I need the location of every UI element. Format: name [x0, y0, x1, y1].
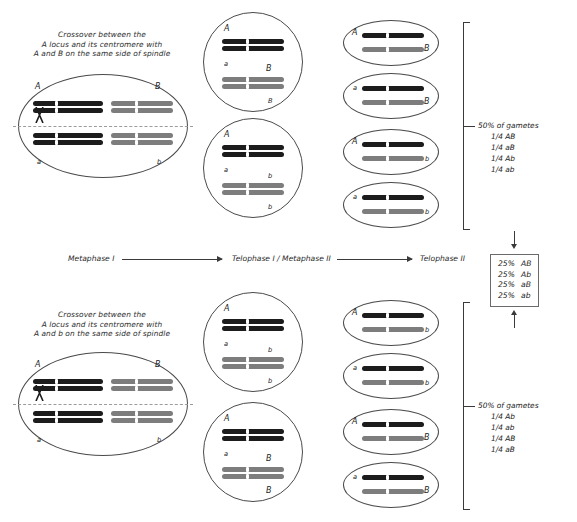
- centromere: [386, 47, 389, 52]
- top-telophase-ii-cell-3: A b: [343, 129, 439, 175]
- chromosome-gray: [362, 156, 424, 161]
- centromere: [135, 411, 138, 416]
- gamete-label-gray: b: [425, 156, 429, 163]
- centromere: [386, 33, 389, 38]
- centromere: [246, 319, 249, 324]
- centromere: [135, 386, 138, 391]
- cell-label-A: A: [224, 415, 229, 423]
- gamete-label-gray: B: [424, 487, 430, 495]
- chromatid: [222, 183, 284, 188]
- top-gamete-item-2: 1/4 aB: [478, 142, 539, 153]
- bottom-caption-line-2: A locus and its centromere with: [14, 320, 190, 330]
- gamete-label-dark: a: [353, 194, 357, 201]
- top-caption: Crossover between the A locus and its ce…: [14, 30, 190, 59]
- summary-row: 25%ab: [498, 291, 531, 302]
- bottom-metaphase-label-a: a: [37, 437, 41, 444]
- chromatid: [111, 108, 173, 113]
- stage-arrow-2: [337, 259, 412, 260]
- chromatid: [222, 357, 284, 362]
- bottom-gamete-heading: 50% of gametes: [478, 400, 539, 411]
- centromere: [135, 108, 138, 113]
- top-gamete-bracket-tick: [463, 126, 475, 127]
- chromatid: [111, 379, 173, 384]
- bottom-caption-line-1: Crossover between the: [14, 310, 190, 320]
- centromere: [135, 133, 138, 138]
- gamete-label-dark: A: [352, 418, 357, 426]
- chromosome-gray: [362, 327, 424, 332]
- chromatid: [222, 467, 284, 472]
- cell-label-b-upper: b: [268, 173, 272, 180]
- cell-label-A: A: [224, 305, 229, 313]
- centromere: [246, 436, 249, 441]
- chromosome-dark: [362, 422, 424, 427]
- centromere: [55, 418, 58, 423]
- centromere: [55, 140, 58, 145]
- cell-label-a: a: [224, 61, 228, 68]
- gamete-label-dark: a: [353, 85, 357, 92]
- cell-label-B-lower: B: [268, 98, 273, 105]
- centromere: [386, 475, 389, 480]
- chromatid: [222, 46, 284, 51]
- chromatid: [222, 319, 284, 324]
- centromere: [135, 379, 138, 384]
- top-telophase-ii-cell-4: a b: [343, 182, 439, 228]
- stage-label-metaphase-i: Metaphase I: [68, 254, 114, 263]
- summary-percent-2: 25%: [498, 270, 521, 281]
- chromatid: [222, 39, 284, 44]
- centromere: [246, 84, 249, 89]
- gamete-label-dark: A: [352, 138, 357, 146]
- gamete-label-gray: B: [424, 98, 430, 106]
- stage-arrow-1: [122, 259, 222, 260]
- chromatid: [111, 386, 173, 391]
- summary-row: 25%AB: [498, 259, 531, 270]
- chromatid: [111, 133, 173, 138]
- centromere: [386, 195, 389, 200]
- centromere: [386, 142, 389, 147]
- centromere: [55, 411, 58, 416]
- centromere: [386, 313, 389, 318]
- gamete-label-gray: B: [424, 45, 430, 53]
- centromere: [246, 39, 249, 44]
- chromatid: [33, 140, 103, 145]
- centromere: [386, 422, 389, 427]
- centromere: [386, 380, 389, 385]
- cell-label-b-lower: b: [268, 204, 272, 211]
- chromosome-gray: [362, 209, 424, 214]
- top-metaphase-label-a: a: [37, 159, 41, 166]
- bottom-caption-line-3: A and b on the same side of spindle: [14, 329, 190, 339]
- gamete-label-dark: A: [352, 309, 357, 317]
- gamete-label-gray: b: [425, 209, 429, 216]
- chromatid: [111, 140, 173, 145]
- summary-percent-1: 25%: [498, 259, 521, 270]
- chromosome-dark: [362, 142, 424, 147]
- centromere: [246, 46, 249, 51]
- centromere: [386, 366, 389, 371]
- top-caption-line-2: A locus and its centromere with: [14, 40, 190, 50]
- bottom-telophase-ii-cell-4: a B: [343, 462, 439, 508]
- gamete-label-dark: a: [353, 365, 357, 372]
- chromosome-dark: [362, 195, 424, 200]
- bottom-gamete-item-3: 1/4 AB: [478, 433, 539, 444]
- chromatid: [222, 145, 284, 150]
- summary-row: 25%aB: [498, 280, 531, 291]
- top-gamete-item-4: 1/4 ab: [478, 164, 539, 175]
- chromatid: [111, 101, 173, 106]
- centromere: [386, 86, 389, 91]
- crossover-chiasma-icon: [35, 107, 44, 123]
- chromatid: [33, 418, 103, 423]
- meiosis-crossover-diagram: Crossover between the A locus and its ce…: [0, 0, 577, 522]
- gamete-label-gray: b: [425, 327, 429, 334]
- chromatid: [222, 474, 284, 479]
- centromere: [135, 418, 138, 423]
- gamete-label-dark: a: [353, 474, 357, 481]
- chromatid: [222, 364, 284, 369]
- top-telophase-i-cell-1: A a B B: [203, 12, 303, 112]
- bottom-caption: Crossover between the A locus and its ce…: [14, 310, 190, 339]
- centromere: [386, 156, 389, 161]
- chromosome-gray: [362, 100, 424, 105]
- bottom-metaphase-label-A: A: [35, 361, 40, 369]
- centromere: [135, 101, 138, 106]
- cell-label-A: A: [224, 131, 229, 139]
- top-gamete-heading: 50% of gametes: [478, 120, 539, 131]
- centromere: [55, 101, 58, 106]
